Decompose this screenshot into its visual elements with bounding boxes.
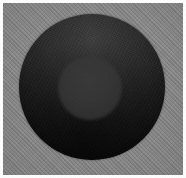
image-canvas: Dark sphere on textured gray background [0, 0, 186, 178]
inner-disc [58, 56, 122, 120]
image-title: Dark sphere on textured gray background [0, 0, 1, 1]
